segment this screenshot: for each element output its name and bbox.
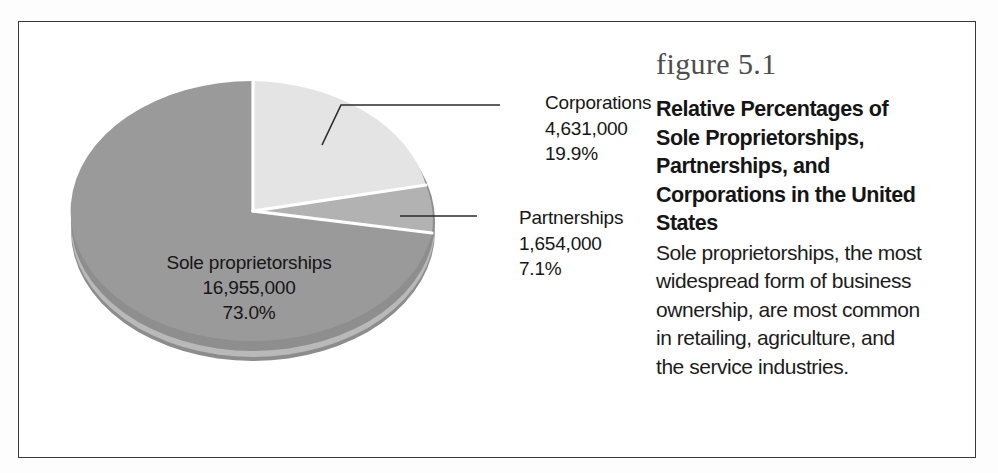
pie-label-corporations-percent: 19.9% <box>545 141 651 167</box>
pie-label-corporations: Corporations 4,631,000 19.9% <box>545 90 651 167</box>
pie-label-corporations-count: 4,631,000 <box>545 116 651 142</box>
figure-description: Sole proprietorships, the most widesprea… <box>656 239 924 382</box>
figure-title: Relative Percentages of Sole Proprietors… <box>656 95 936 238</box>
pie-chart: Sole proprietorships 16,955,000 73.0% Co… <box>53 35 653 445</box>
pie-label-partnerships-percent: 7.1% <box>519 256 623 282</box>
figure-frame: Sole proprietorships 16,955,000 73.0% Co… <box>18 21 976 458</box>
pie-slices <box>71 81 433 341</box>
pie-label-partnerships-name: Partnerships <box>519 205 623 231</box>
pie-label-corporations-name: Corporations <box>545 90 651 116</box>
pie-label-partnerships-count: 1,654,000 <box>519 231 623 257</box>
caption-column: figure 5.1 Relative Percentages of Sole … <box>656 47 936 381</box>
figure-number: figure 5.1 <box>656 47 936 81</box>
pie-label-partnerships: Partnerships 1,654,000 7.1% <box>519 205 623 282</box>
